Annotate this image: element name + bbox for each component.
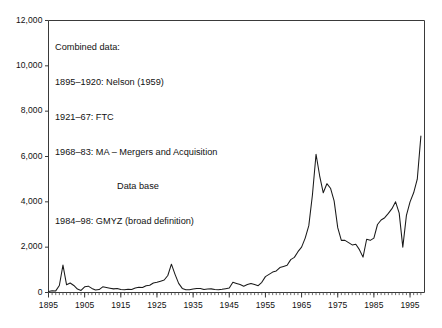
y-axis-ticks [45,21,49,293]
plot-canvas [0,0,442,328]
y-tick-label: 6,000 [21,151,43,161]
y-tick-label: 10,000 [16,60,43,70]
y-tick-label: 4,000 [21,196,43,206]
x-tick-label: 1915 [101,300,141,310]
y-tick-label: 0 [38,287,43,297]
y-tick-label: 2,000 [21,241,43,251]
x-tick-label: 1995 [390,300,430,310]
y-tick-label: 8,000 [21,105,43,115]
y-tick-label: 12,000 [16,15,43,25]
x-tick-label: 1965 [282,300,322,310]
x-tick-label: 1955 [245,300,285,310]
x-tick-label: 1935 [173,300,213,310]
x-tick-label: 1925 [137,300,177,310]
x-tick-label: 1985 [354,300,394,310]
x-tick-label: 1895 [29,300,69,310]
x-tick-label: 1975 [318,300,358,310]
x-tick-label: 1945 [209,300,249,310]
axis-frame [49,21,425,293]
merger-activity-chart: Combined data: 1895–1920: Nelson (1959) … [0,0,442,328]
series-line-number-of-mergers [49,136,421,291]
x-tick-label: 1905 [65,300,105,310]
